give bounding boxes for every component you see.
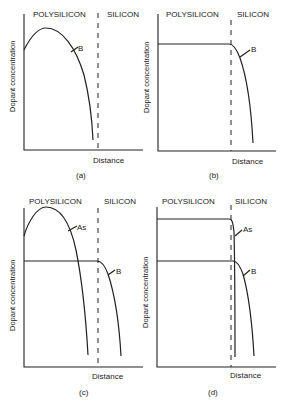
curve-label-b: B [251,267,256,276]
axes [157,207,276,367]
region-label-silicon: SILICON [104,197,136,206]
curve-label-b: B [116,267,121,276]
panel-d: POLYSILICON SILICON As B Dopant concentr… [141,197,276,397]
panel-caption: (c) [79,388,89,397]
leader-b [240,50,250,57]
axes [24,14,143,150]
region-label-polysilicon: POLYSILICON [29,197,82,206]
region-label-silicon: SILICON [237,10,269,19]
y-axis-label: Dopant concentration [8,260,17,331]
x-axis-label: Distance [232,157,264,166]
x-axis-label: Distance [92,372,124,381]
axes [158,14,276,151]
leader-b [108,270,115,275]
region-label-polysilicon: POLYSILICON [166,10,219,19]
region-label-polysilicon: POLYSILICON [162,197,215,206]
y-axis-label: Dopant concentration [141,257,150,328]
curve-label-b: B [251,45,256,54]
panel-caption: (d) [208,388,218,397]
leader-as [235,230,242,236]
y-axis-label: Dopant concentration [8,41,17,112]
curve-label-as: As [243,225,252,234]
dopant-profile-diagram: POLYSILICON SILICON B Dopant concentrati… [0,0,286,407]
curve-b [157,261,254,356]
curve-as [157,219,235,357]
curve-label-as: As [77,223,86,232]
panel-a: POLYSILICON SILICON B Dopant concentrati… [8,10,143,180]
x-axis-label: Distance [93,156,125,165]
panel-c: POLYSILICON SILICON As B Dopant concentr… [8,197,143,397]
panel-caption: (b) [209,171,219,180]
curve-b [24,261,121,356]
panel-caption: (a) [76,171,86,180]
panel-b: POLYSILICON SILICON B Dopant concentrati… [142,10,276,180]
curve-b [158,44,253,143]
leader-b [243,270,250,276]
curve-label-b: B [78,44,83,53]
y-axis-label: Dopant concentration [142,42,151,113]
region-label-polysilicon: POLYSILICON [33,10,86,19]
x-axis-label: Distance [230,371,262,380]
region-label-silicon: SILICON [235,197,267,206]
region-label-silicon: SILICON [107,10,139,19]
